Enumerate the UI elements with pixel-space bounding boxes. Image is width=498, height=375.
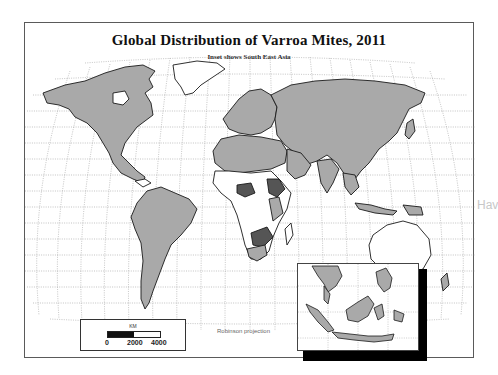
north-america [43, 65, 155, 183]
greenland [173, 61, 225, 95]
scale-tick-2000: 2000 [127, 339, 143, 346]
europe [223, 89, 277, 135]
north-africa [213, 135, 287, 173]
scale-tick-0: 0 [105, 339, 109, 346]
scale-bar-box: KM 0 2000 4000 [80, 319, 186, 351]
scale-unit-label: KM [81, 323, 185, 329]
inset-map-svg [298, 264, 418, 350]
map-frame: Global Distribution of Varroa Mites, 201… [24, 22, 474, 358]
scale-tick-4000: 4000 [151, 339, 167, 346]
inset-map-south-east-asia [297, 263, 419, 351]
scale-bar [107, 331, 161, 338]
watermark-text: Hav [477, 198, 498, 212]
south-america [131, 187, 197, 309]
projection-label: Robinson projection [217, 328, 270, 334]
